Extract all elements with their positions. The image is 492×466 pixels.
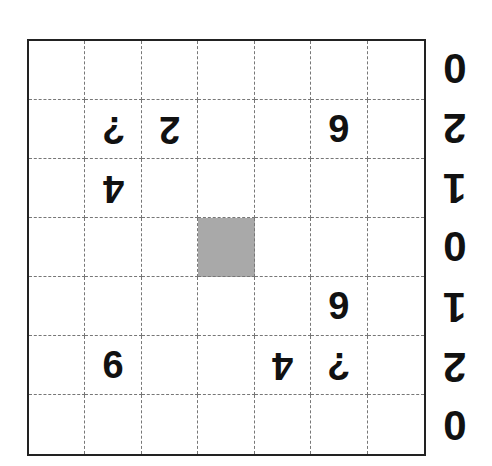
row-clue: 0 [430, 39, 480, 99]
grid-cell: ? [311, 336, 367, 395]
grid-cell [311, 159, 367, 218]
puzzle-grid: ?294964? [27, 39, 426, 456]
grid-cell [368, 395, 424, 454]
row-clue: 0 [430, 218, 480, 278]
grid-cell: ? [85, 100, 141, 159]
cell-value: 2 [159, 108, 180, 151]
grid-cell [368, 336, 424, 395]
grid-cell [198, 41, 254, 100]
grid-cell [368, 159, 424, 218]
grid-cell [29, 41, 85, 100]
grid-cell [142, 395, 198, 454]
row-clue-value: 0 [443, 402, 466, 450]
grid-cell [368, 100, 424, 159]
grid-cell [29, 277, 85, 336]
grid-cell [255, 100, 311, 159]
grid-cell [29, 395, 85, 454]
row-clue-value: 1 [443, 164, 466, 212]
shaded-cell [198, 218, 254, 277]
grid-cell [255, 395, 311, 454]
grid-cell: 2 [142, 100, 198, 159]
row-clue-value: 0 [443, 223, 466, 271]
row-clue: 2 [430, 99, 480, 159]
grid-cell [255, 277, 311, 336]
row-clue-value: 1 [443, 283, 466, 331]
grid-cell [198, 277, 254, 336]
grid-cell [29, 336, 85, 395]
grid-cell [368, 277, 424, 336]
grid-cell: 4 [255, 336, 311, 395]
grid-cell [85, 41, 141, 100]
cell-value: 9 [328, 285, 349, 328]
grid-cell [142, 41, 198, 100]
grid-cell [311, 41, 367, 100]
grid-cell [255, 218, 311, 277]
grid-cell [29, 159, 85, 218]
grid-cell [255, 41, 311, 100]
grid-cell [198, 100, 254, 159]
cell-value: 4 [272, 344, 293, 387]
row-clue-labels: 0210120 [430, 39, 480, 456]
cell-value: 9 [328, 108, 349, 151]
grid-cell: 4 [85, 159, 141, 218]
row-clue: 1 [430, 158, 480, 218]
grid-cell [198, 395, 254, 454]
grid-cell [368, 41, 424, 100]
grid-cell [198, 336, 254, 395]
grid-cell [142, 336, 198, 395]
grid-cell [85, 395, 141, 454]
grid-cell [29, 100, 85, 159]
row-clue-value: 2 [443, 104, 466, 152]
grid-cell [255, 159, 311, 218]
grid-cell [142, 218, 198, 277]
grid-cell [142, 277, 198, 336]
row-clue-value: 2 [443, 343, 466, 391]
grid-cell [85, 277, 141, 336]
row-clue: 2 [430, 337, 480, 397]
grid-cell: 9 [311, 277, 367, 336]
grid-cell [368, 218, 424, 277]
row-clue: 0 [430, 396, 480, 456]
cell-value: ? [327, 344, 350, 387]
cell-value: ? [102, 108, 125, 151]
row-clue-value: 0 [443, 45, 466, 93]
grid-cell [311, 218, 367, 277]
grid-cell [142, 159, 198, 218]
row-clue: 1 [430, 277, 480, 337]
cell-value: 6 [103, 344, 124, 387]
grid-cell [198, 159, 254, 218]
grid-cell: 9 [311, 100, 367, 159]
grid-cell [311, 395, 367, 454]
cell-value: 4 [103, 167, 124, 210]
grid-cell: 6 [85, 336, 141, 395]
grid-cell [85, 218, 141, 277]
grid-cell [29, 218, 85, 277]
